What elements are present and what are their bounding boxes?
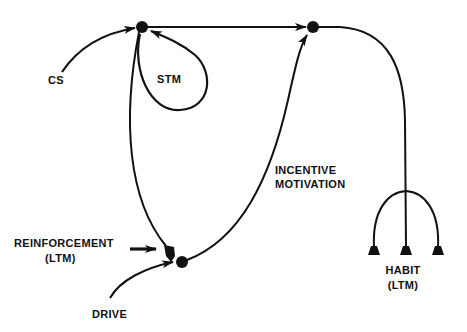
drive-node (176, 256, 188, 268)
motor-node (307, 21, 319, 33)
incentive-label: INCENTIVE (275, 164, 336, 177)
habit-ltm-label: (LTM) (383, 279, 423, 292)
cs-label: CS (48, 74, 64, 87)
stm-loop (138, 31, 207, 110)
stm-label: STM (157, 73, 181, 86)
habit-synapse-icon-left (368, 246, 380, 255)
sensory-node (136, 21, 148, 33)
reinforcement-synapse-icon (164, 245, 175, 262)
cs-arrow (62, 28, 135, 72)
drive-label: DRIVE (92, 308, 127, 321)
reinforcement-pathway (130, 32, 166, 246)
reinforcement-label: REINFORCEMENT (14, 237, 114, 250)
habit-synapse-icon-right (432, 246, 444, 255)
habit-synapse-icon-center (400, 246, 412, 255)
motivation-label: MOTIVATION (275, 178, 345, 191)
reinforcement-ltm-label: (LTM) (45, 252, 76, 265)
motor-output-pathway (317, 27, 406, 248)
habit-label: HABIT (383, 264, 423, 277)
drive-arrow (110, 262, 173, 298)
